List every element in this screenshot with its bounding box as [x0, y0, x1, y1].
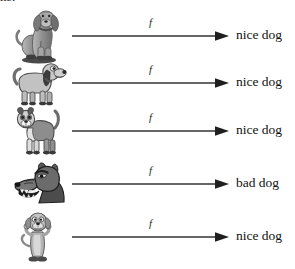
mapping-arrow: f	[72, 30, 229, 42]
mapping-arrow: f	[72, 77, 229, 89]
input-image-sitting-bloodhound-dog-image	[8, 7, 68, 65]
output-label: nice dog	[236, 228, 282, 244]
output-label: nice dog	[236, 122, 282, 138]
output-label: nice dog	[236, 27, 282, 43]
arrow-function-label: f	[72, 16, 229, 28]
function-mapping-figure: ns.	[0, 0, 295, 269]
arrow-function-label: f	[72, 164, 229, 176]
arrow-function-label: f	[72, 217, 229, 229]
mapping-arrow: f	[72, 125, 229, 137]
arrow-function-label: f	[72, 63, 229, 75]
output-label: bad dog	[236, 175, 279, 191]
arrow-function-label: f	[72, 111, 229, 123]
mapping-arrow: f	[72, 178, 229, 190]
output-label: nice dog	[236, 74, 282, 90]
input-image-standing-terrier-dog-image	[8, 104, 68, 158]
clipped-caption-text: ns.	[0, 0, 15, 5]
input-image-upright-cartoon-dog-image	[8, 208, 68, 266]
input-image-snarling-angry-dog-head-image	[8, 160, 68, 208]
input-image-cartoon-dachshund-dog-image	[8, 58, 68, 108]
mapping-arrow: f	[72, 231, 229, 243]
